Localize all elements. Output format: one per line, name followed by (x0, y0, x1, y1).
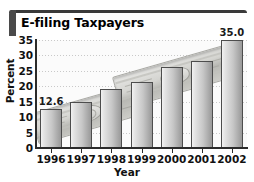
bar-2001 (191, 61, 213, 148)
x-tick-label-2002: 2002 (212, 153, 252, 165)
gridline-35 (36, 40, 247, 41)
x-tick-2000 (172, 149, 173, 153)
bar-2002 (221, 40, 243, 148)
x-tick-1999 (142, 149, 143, 153)
x-tick-2001 (202, 149, 203, 153)
bar-value-label-2002: 35.0 (212, 27, 252, 38)
chart-figure: E-filing Taxpayers 0510152025 (0, 0, 254, 182)
bar-2000 (161, 67, 183, 148)
x-tick-2002 (232, 149, 233, 153)
bar-1997 (70, 102, 92, 148)
y-tick-label-0: 0 (13, 143, 33, 153)
bar-1998 (100, 89, 122, 148)
bar-1996 (40, 109, 62, 148)
y-tick-label-35: 35 (13, 35, 33, 45)
x-tick-1997 (81, 149, 82, 153)
chart-title: E-filing Taxpayers (21, 13, 236, 35)
y-axis-line (35, 39, 37, 149)
bar-1999 (131, 82, 153, 148)
bar-value-label-1996: 12.6 (31, 96, 71, 107)
x-tick-1998 (111, 149, 112, 153)
y-tick-label-5: 5 (13, 128, 33, 138)
x-axis-title: Year (0, 166, 254, 178)
y-axis-title: Percent (4, 48, 18, 114)
x-tick-1996 (51, 149, 52, 153)
plot-area (36, 40, 247, 148)
